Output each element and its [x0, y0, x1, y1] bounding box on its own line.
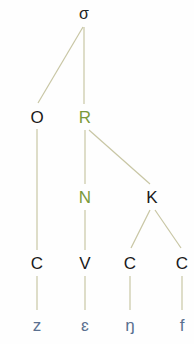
- skeleton-c4: C: [176, 255, 188, 272]
- nucleus-node: N: [79, 189, 91, 206]
- segment-f: f: [180, 317, 185, 334]
- rhyme-node: R: [79, 109, 91, 126]
- root-sigma: σ: [79, 6, 89, 22]
- edge-coda-c3: [131, 210, 150, 248]
- segment-epsilon: ɛ: [81, 317, 89, 334]
- segment-z: z: [33, 317, 42, 334]
- edge-coda-c4: [155, 210, 181, 248]
- skeleton-c1: C: [31, 255, 43, 272]
- syllable-tree-diagram: σ O R N K C V C C z ɛ ŋ f: [0, 0, 194, 344]
- skeleton-c3: C: [124, 255, 136, 272]
- edge-root-onset: [38, 27, 83, 103]
- onset-node: O: [30, 109, 43, 126]
- skeleton-v: V: [79, 255, 90, 272]
- coda-node: K: [146, 189, 157, 206]
- segment-eng: ŋ: [125, 317, 134, 334]
- edge-rhyme-coda: [89, 130, 150, 184]
- tree-edges: [0, 0, 194, 344]
